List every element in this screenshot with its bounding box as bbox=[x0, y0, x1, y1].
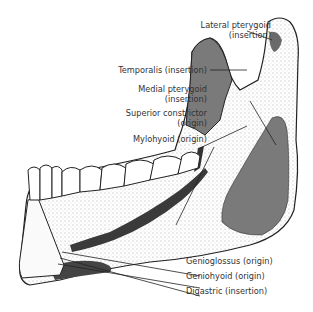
label-genioglossus: Genioglossus (origin) bbox=[186, 256, 273, 266]
label-text: Digastric (insertion) bbox=[186, 286, 267, 296]
label-geniohyoid: Geniohyoid (origin) bbox=[186, 271, 265, 281]
label-mylohyoid: Mylohyoid (origin) bbox=[133, 134, 207, 144]
label-superior-constrictor: Superior constrictor (origin) bbox=[126, 108, 207, 128]
label-text: Geniohyoid (origin) bbox=[186, 271, 265, 281]
label-text: Lateral pterygoid bbox=[201, 20, 271, 30]
label-lateral-pterygoid: Lateral pterygoid (insertion) bbox=[201, 20, 271, 40]
label-medial-pterygoid: Medial pterygoid (insertion) bbox=[138, 84, 207, 104]
label-text: (insertion) bbox=[201, 30, 271, 40]
label-text: Mylohyoid (origin) bbox=[133, 134, 207, 144]
label-text: Superior constrictor bbox=[126, 108, 207, 118]
label-text: Medial pterygoid bbox=[138, 84, 207, 94]
label-text: Genioglossus (origin) bbox=[186, 256, 273, 266]
label-temporalis: Temporalis (insertion) bbox=[118, 65, 207, 75]
label-text: Temporalis (insertion) bbox=[118, 65, 207, 75]
label-digastric: Digastric (insertion) bbox=[186, 286, 267, 296]
mandible-diagram: Lateral pterygoid (insertion) Temporalis… bbox=[0, 0, 313, 312]
label-text: (insertion) bbox=[138, 94, 207, 104]
label-text: (origin) bbox=[126, 118, 207, 128]
